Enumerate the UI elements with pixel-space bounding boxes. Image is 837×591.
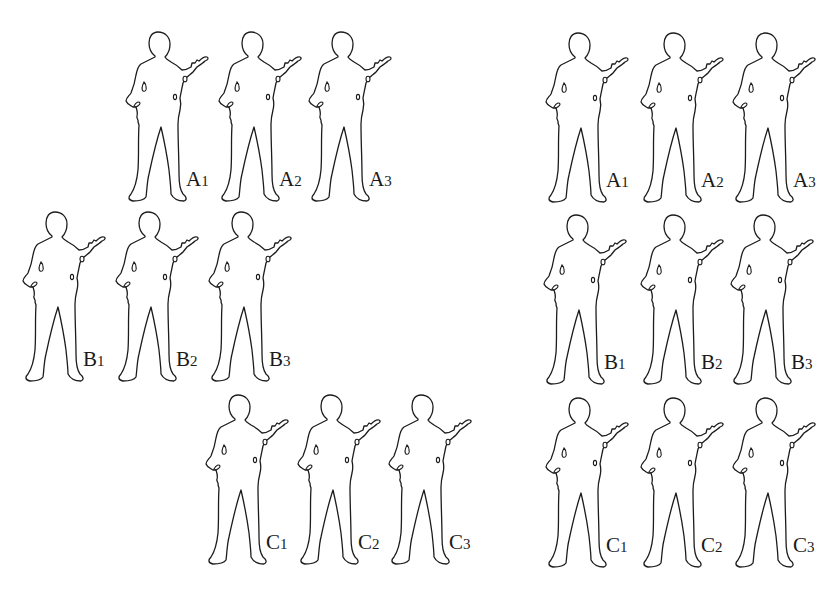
soldier-a3-right: A3: [732, 31, 824, 206]
label-index: 1: [621, 174, 629, 190]
label-letter: A: [793, 168, 808, 192]
label-letter: B: [604, 350, 618, 374]
label-index: 3: [808, 174, 816, 190]
soldier-a2-right: A2: [640, 31, 732, 206]
label-index: 3: [805, 356, 813, 372]
label-letter: C: [606, 533, 620, 557]
label-index: 2: [716, 174, 724, 190]
label-index: 1: [618, 356, 626, 372]
soldier-label: A2: [701, 170, 724, 191]
label-letter: B: [701, 350, 715, 374]
soldier-label: B1: [604, 352, 626, 373]
soldier-b1-right: B1: [543, 213, 635, 388]
soldier-b3-right: B3: [730, 213, 822, 388]
soldier-c1-right: C1: [545, 396, 637, 571]
label-index: 2: [715, 356, 723, 372]
soldier-label: B3: [791, 352, 813, 373]
right-formation: A1 A2 A3 B1 B2 B3 C1 C2 C3: [0, 0, 837, 591]
label-index: 3: [807, 539, 815, 555]
label-index: 1: [620, 539, 628, 555]
soldier-label: C2: [701, 535, 723, 556]
soldier-a1-right: A1: [545, 31, 637, 206]
soldier-c2-right: C2: [640, 396, 732, 571]
label-letter: C: [701, 533, 715, 557]
soldier-label: C3: [793, 535, 815, 556]
soldier-label: A1: [606, 170, 629, 191]
label-letter: C: [793, 533, 807, 557]
label-letter: A: [606, 168, 621, 192]
soldier-label: C1: [606, 535, 628, 556]
label-letter: A: [701, 168, 716, 192]
soldier-b2-right: B2: [640, 213, 732, 388]
soldier-c3-right: C3: [732, 396, 824, 571]
label-letter: B: [791, 350, 805, 374]
label-index: 2: [715, 539, 723, 555]
soldier-label: A3: [793, 170, 816, 191]
soldier-label: B2: [701, 352, 723, 373]
